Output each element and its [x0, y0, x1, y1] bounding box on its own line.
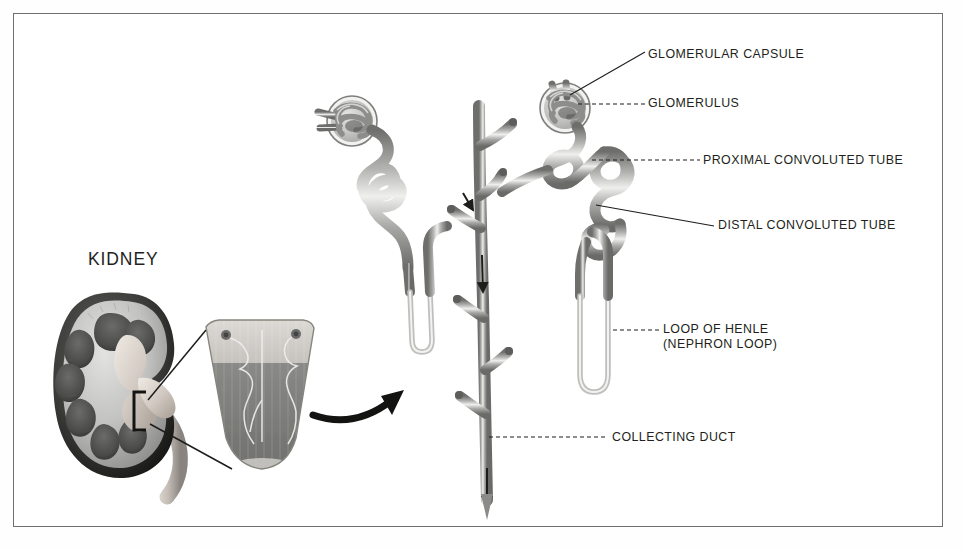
label-glomerular-capsule: GLOMERULAR CAPSULE	[648, 47, 804, 62]
kidney-wedge-inset	[200, 315, 324, 478]
nephron-left	[318, 96, 447, 352]
diagram-artwork	[0, 0, 963, 550]
label-collecting-duct: COLLECTING DUCT	[612, 430, 736, 445]
curved-arrow-icon	[313, 390, 404, 420]
flow-arrow	[482, 255, 483, 292]
label-nephron-loop: (NEPHRON LOOP)	[663, 337, 777, 352]
kidney-heading: KIDNEY	[88, 252, 159, 267]
kidney-illustration	[53, 292, 180, 497]
flow-arrow	[463, 193, 473, 210]
label-distal-convoluted-tube: DISTAL CONVOLUTED TUBE	[718, 218, 896, 233]
label-loop-of-henle: LOOP OF HENLE	[663, 322, 768, 337]
diagram-canvas: KIDNEY GLOMERULAR CAPSULE GLOMERULUS PRO…	[0, 0, 963, 550]
nephron-right	[502, 83, 629, 392]
label-proximal-convoluted-tube: PROXIMAL CONVOLUTED TUBE	[703, 153, 903, 168]
label-glomerulus: GLOMERULUS	[648, 96, 739, 111]
collecting-duct	[447, 106, 517, 520]
leader-glomerular-capsule	[570, 52, 645, 95]
